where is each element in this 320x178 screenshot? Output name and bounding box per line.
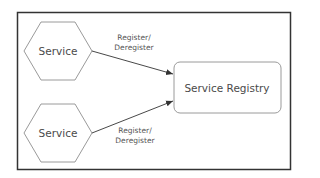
service-top-label: Service: [39, 45, 78, 57]
service-bottom-label: Service: [39, 127, 78, 139]
edge-bottom-label: Register/ Deregister: [115, 126, 154, 146]
edge-top-to-registry: [92, 51, 173, 74]
edge-top-label-line1: Register/: [114, 33, 153, 43]
edge-bottom-label-line2: Deregister: [115, 136, 154, 146]
edge-top-label: Register/ Deregister: [114, 33, 153, 53]
edge-top-label-line2: Deregister: [114, 43, 153, 53]
service-registry-label: Service Registry: [184, 82, 269, 94]
edge-bottom-label-line1: Register/: [115, 126, 154, 136]
